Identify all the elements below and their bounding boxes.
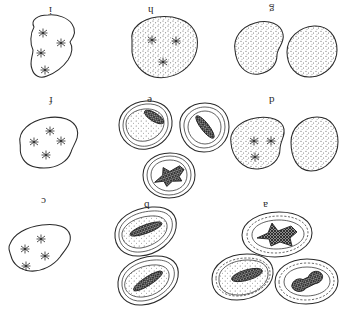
chromosome-cluster [57,39,66,48]
chromosome-cluster [42,151,51,160]
panel-label-d: d [269,95,275,106]
chromosome-cluster [39,29,48,38]
panel-label-b: b [144,200,150,211]
chromosome-clusters [30,127,66,160]
chromosome-cluster [37,49,46,58]
panel-h: h [112,0,234,100]
cell-group [180,103,229,152]
chromosome-mass [257,223,297,246]
chromosome-mass [151,161,188,190]
cell-outline [20,117,78,168]
cell-group [143,153,195,198]
chromosome-mass [290,269,325,295]
panel-c-drawing [0,196,115,309]
chromosome-cluster [37,235,46,244]
panel-a-drawing [214,200,341,309]
panel-c: c [0,196,115,309]
chromosome-cluster [46,127,55,136]
panel-label-i: i [49,5,52,16]
panel-h-drawing [112,0,234,100]
panel-label-e: e [147,95,152,106]
figure-plate: i [0,0,341,309]
panel-d-drawing [225,95,341,200]
chromosome-cluster [21,245,30,254]
panel-a: a [214,200,341,309]
panel-label-f: f [49,95,53,106]
panel-label-g: g [269,4,275,15]
panel-i-drawing [0,0,115,100]
chromosome-cluster [41,66,50,75]
panel-label-h: h [148,5,154,16]
chromosome-cluster [41,252,50,261]
panel-g: g [225,0,341,100]
panel-label-c: c [41,196,46,207]
panel-e-drawing [110,95,236,203]
cell-group [275,259,338,304]
chromosome-cluster [30,138,39,147]
panel-i: i [0,0,115,100]
panel-e: e [110,95,236,203]
cell-stipple-fill [112,0,234,100]
chromosome-cluster [57,137,66,146]
panel-g-drawing [225,0,341,100]
chromosome-clusters [21,235,50,271]
cell-outline [31,15,75,77]
panel-f-drawing [0,95,115,200]
panel-d: d [225,95,341,200]
panel-label-a: a [263,200,268,211]
chromosome-mass [193,114,217,141]
cell-group [242,212,312,257]
panel-f: f [0,95,115,200]
cell-outline [9,224,70,271]
